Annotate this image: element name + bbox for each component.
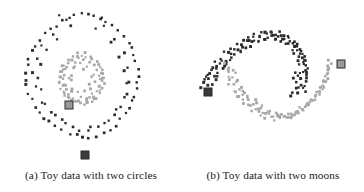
data-point — [298, 63, 300, 65]
data-point — [90, 75, 93, 78]
data-point — [98, 75, 100, 77]
data-point — [87, 129, 89, 131]
data-point — [58, 76, 60, 78]
data-point — [62, 78, 64, 80]
data-point — [237, 48, 240, 51]
data-point — [117, 29, 119, 31]
data-point — [55, 25, 57, 27]
data-point — [260, 107, 263, 110]
data-point — [279, 40, 282, 43]
data-point — [119, 118, 121, 120]
data-point — [79, 62, 81, 64]
data-point — [83, 103, 85, 105]
data-point — [304, 69, 307, 72]
data-point — [83, 90, 86, 93]
series-upper-moon-dark — [199, 30, 309, 97]
data-point — [65, 88, 68, 91]
data-point — [99, 92, 101, 94]
data-point — [236, 43, 238, 45]
light-class-marker — [337, 60, 345, 68]
data-point — [64, 68, 66, 70]
data-point — [76, 133, 79, 136]
data-point — [78, 130, 80, 132]
data-point — [283, 115, 285, 117]
data-point — [246, 97, 249, 100]
data-point — [45, 49, 47, 51]
data-point — [56, 38, 58, 40]
data-point — [246, 39, 249, 42]
data-point — [88, 83, 91, 86]
data-point — [318, 94, 320, 96]
data-point — [118, 56, 121, 59]
data-point — [302, 71, 304, 73]
series-lower-moon-light — [223, 59, 333, 122]
data-point — [262, 112, 264, 114]
data-point — [215, 78, 218, 81]
data-point — [233, 83, 236, 86]
data-point — [92, 15, 94, 17]
data-point — [93, 64, 96, 67]
data-point — [81, 136, 84, 139]
caption-panel-a: (a) Toy data with two circles — [0, 168, 182, 183]
data-point — [110, 41, 113, 44]
data-point — [263, 38, 265, 40]
data-point — [270, 30, 273, 33]
data-point — [327, 59, 330, 62]
data-point — [299, 77, 302, 80]
data-point — [324, 75, 326, 77]
data-point — [283, 34, 286, 37]
data-point — [297, 86, 299, 88]
data-point — [275, 34, 277, 36]
data-point — [228, 78, 231, 81]
data-point — [101, 69, 104, 72]
data-point — [137, 68, 140, 71]
data-point — [287, 113, 290, 116]
data-point — [236, 79, 239, 82]
data-point — [68, 77, 70, 79]
data-point — [252, 36, 254, 38]
data-point — [81, 12, 83, 14]
data-point — [233, 53, 235, 55]
data-point — [233, 48, 235, 50]
data-point — [90, 58, 93, 61]
data-point — [292, 77, 295, 80]
data-point — [54, 114, 57, 117]
data-point — [70, 79, 73, 82]
data-point — [295, 111, 298, 114]
data-point — [128, 42, 130, 44]
data-point — [255, 108, 257, 110]
data-point — [93, 74, 95, 76]
data-point — [72, 97, 74, 99]
data-point — [255, 101, 258, 104]
data-point — [95, 27, 97, 29]
figure-two-toy-datasets: (a) Toy data with two circles (b) Toy da… — [0, 0, 364, 192]
data-point — [61, 70, 64, 73]
data-point — [310, 98, 312, 100]
data-point — [123, 69, 126, 72]
data-point — [42, 117, 45, 120]
data-point — [95, 136, 98, 139]
data-point — [318, 91, 320, 93]
data-point — [296, 49, 298, 51]
data-point — [34, 45, 36, 47]
data-point — [297, 75, 299, 77]
data-point — [293, 45, 296, 48]
data-point — [279, 116, 282, 119]
data-point — [103, 82, 106, 85]
data-point — [49, 28, 51, 30]
data-point — [67, 59, 70, 62]
data-point — [309, 101, 312, 104]
data-point — [272, 115, 274, 117]
data-point — [68, 17, 70, 19]
data-point — [126, 93, 129, 96]
data-point — [115, 108, 117, 110]
data-point — [305, 77, 307, 79]
data-point — [326, 64, 329, 67]
data-point — [292, 49, 294, 51]
data-point — [39, 39, 42, 42]
data-point — [251, 40, 254, 43]
data-point — [98, 90, 100, 92]
data-point — [299, 72, 301, 74]
data-point — [81, 55, 83, 57]
data-point — [223, 62, 226, 65]
